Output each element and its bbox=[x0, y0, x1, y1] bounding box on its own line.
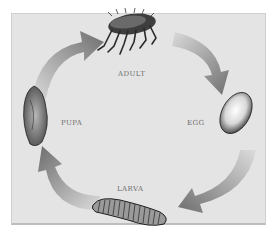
arrow-egg-to-larva bbox=[178, 150, 256, 213]
stage-label-adult: ADULT bbox=[118, 70, 145, 78]
arrow-pupa-to-adult bbox=[32, 31, 104, 98]
life-cycle-diagram bbox=[0, 0, 276, 252]
stage-label-larva: LARVA bbox=[117, 185, 143, 193]
adult-flea-icon bbox=[98, 8, 157, 54]
stage-label-egg: EGG bbox=[187, 119, 205, 127]
larva-icon bbox=[92, 199, 166, 226]
arrow-larva-to-pupa bbox=[38, 146, 100, 210]
arrow-adult-to-egg bbox=[172, 32, 229, 95]
egg-icon bbox=[213, 87, 258, 139]
stage-label-pupa: PUPA bbox=[61, 119, 82, 127]
